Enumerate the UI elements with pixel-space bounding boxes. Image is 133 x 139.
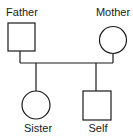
pedigree-chart — [0, 0, 133, 139]
sister-label: Sister — [24, 122, 52, 134]
father-square-symbol — [8, 23, 35, 51]
mother-circle-symbol — [100, 27, 127, 54]
self-label: Self — [89, 122, 108, 134]
sister-circle-symbol — [22, 91, 50, 119]
self-square-symbol — [83, 91, 111, 120]
father-label: Father — [6, 6, 38, 18]
mother-label: Mother — [96, 6, 130, 18]
